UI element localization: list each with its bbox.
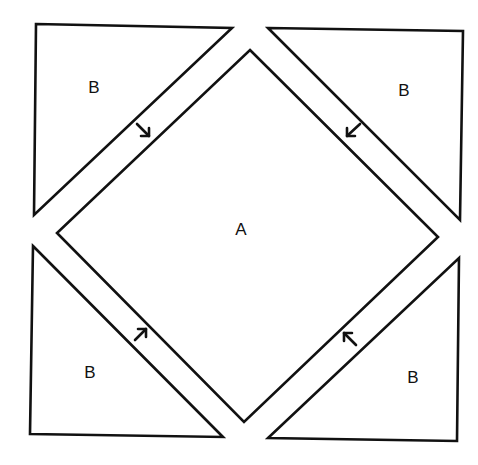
arrow-up-left-icon <box>344 333 356 345</box>
arrow-down-right-icon <box>137 124 149 136</box>
label-a: A <box>235 220 247 239</box>
label-b-top-right: B <box>398 81 409 100</box>
label-b-bottom-left: B <box>84 363 95 382</box>
quilt-block-diagram: A B B B B <box>0 0 478 465</box>
label-b-bottom-right: B <box>407 368 418 387</box>
label-b-top-left: B <box>88 78 99 97</box>
arrow-up-right-icon <box>135 329 146 340</box>
arrow-down-left-icon <box>347 124 360 136</box>
